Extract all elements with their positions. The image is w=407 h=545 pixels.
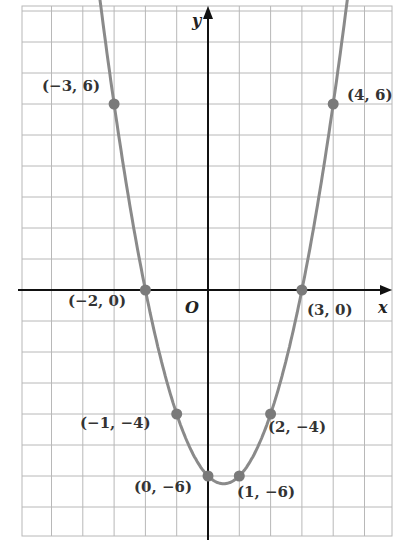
parabola-graph: x y O (−3, 6) (−2, 0) (−1, −4) (0, −6) (… [0,0,407,545]
point-label: (−3, 6) [42,77,100,95]
point-label: (2, −4) [268,418,326,436]
data-point [140,285,151,296]
data-point [203,471,214,482]
point-label: (4, 6) [347,86,393,104]
point-label: (3, 0) [307,301,353,319]
point-label: (1, −6) [237,483,295,501]
data-point [171,409,182,420]
x-axis-label: x [377,298,388,317]
data-point [296,285,307,296]
data-point [234,471,245,482]
point-label: (−2, 0) [68,292,126,310]
y-axis-label: y [191,11,203,30]
y-axis-arrow-icon [203,6,213,19]
point-label: (0, −6) [134,478,192,496]
data-point [328,99,339,110]
x-axis-arrow-icon [380,285,392,295]
point-label: (−1, −4) [80,414,151,432]
origin-label: O [185,298,199,317]
data-point [109,99,120,110]
